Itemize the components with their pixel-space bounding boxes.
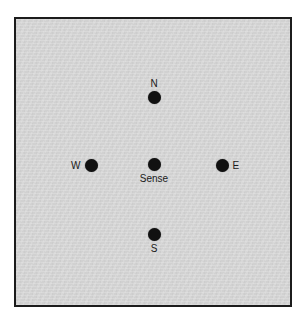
sensor-label-west: W [71,160,80,171]
sensor-dot-west [85,159,98,172]
sensor-dot-sense [148,158,161,171]
diagram-panel: NWSenseES [14,17,292,307]
page-background: NWSenseES [0,0,308,325]
sensor-dot-north [148,91,161,104]
sensor-label-sense: Sense [140,173,168,184]
sensor-dot-south [148,228,161,241]
sensor-label-south: S [151,243,158,254]
sensor-label-north: N [150,78,157,89]
sensor-dot-east [216,159,229,172]
sensor-label-east: E [233,160,240,171]
